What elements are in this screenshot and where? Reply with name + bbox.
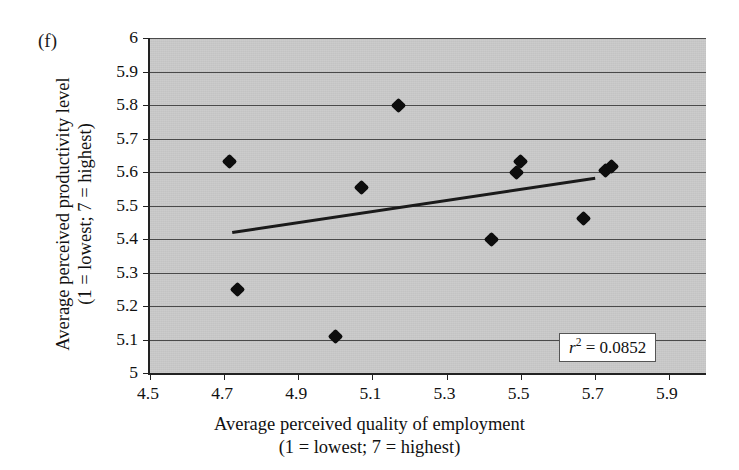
y-tick-label: 6 xyxy=(78,29,138,47)
data-point xyxy=(229,281,245,297)
gridline xyxy=(150,172,706,173)
y-tick-label: 5.2 xyxy=(78,297,138,315)
gridline xyxy=(150,105,706,106)
data-point xyxy=(391,97,407,113)
gridline xyxy=(150,273,706,274)
data-point xyxy=(353,179,369,195)
r-squared-equals: = xyxy=(581,338,599,357)
x-axis-tick xyxy=(447,373,448,380)
x-axis-tick xyxy=(372,373,373,380)
x-axis-tick xyxy=(521,373,522,380)
y-axis-tick xyxy=(143,105,150,106)
y-tick-label: 5.4 xyxy=(78,230,138,248)
gridline xyxy=(150,239,706,240)
y-axis-title-line1: Average perceived productivity level xyxy=(52,44,74,384)
data-point xyxy=(222,154,238,170)
x-tick-label: 5.5 xyxy=(489,383,549,404)
r-squared-symbol: r xyxy=(569,338,576,357)
r-squared-annotation: r2 = 0.0852 xyxy=(559,333,656,362)
data-point xyxy=(576,211,592,227)
data-point xyxy=(328,328,344,344)
y-axis-tick xyxy=(143,139,150,140)
y-axis-tick xyxy=(143,38,150,39)
gridline xyxy=(150,38,706,39)
data-point xyxy=(483,231,499,247)
y-axis-tick xyxy=(143,172,150,173)
y-tick-label: 5.1 xyxy=(78,331,138,349)
x-tick-label: 5.7 xyxy=(563,383,623,404)
x-axis-tick xyxy=(669,373,670,380)
x-tick-label: 4.9 xyxy=(266,383,326,404)
x-axis-tick xyxy=(224,373,225,380)
y-tick-label: 5.8 xyxy=(78,96,138,114)
x-axis-title-line2: (1 = lowest; 7 = highest) xyxy=(0,436,739,459)
y-axis-tick xyxy=(143,273,150,274)
gridline xyxy=(150,206,706,207)
plot-area: r2 = 0.0852 xyxy=(148,38,706,375)
y-tick-label: 5.7 xyxy=(78,130,138,148)
y-axis-tick xyxy=(143,72,150,73)
y-tick-label: 5.5 xyxy=(78,197,138,215)
x-axis-tick xyxy=(150,373,151,380)
y-tick-label: 5.6 xyxy=(78,163,138,181)
y-tick-label: 5 xyxy=(78,364,138,382)
y-axis-tick xyxy=(143,206,150,207)
y-axis-tick xyxy=(143,306,150,307)
figure-panel: (f) Average perceived productivity level… xyxy=(0,0,739,470)
x-tick-label: 4.5 xyxy=(118,383,178,404)
x-axis-tick xyxy=(595,373,596,380)
x-tick-label: 4.7 xyxy=(192,383,252,404)
x-tick-label: 5.3 xyxy=(415,383,475,404)
gridline xyxy=(150,306,706,307)
x-tick-label: 5.9 xyxy=(637,383,697,404)
gridline xyxy=(150,139,706,140)
y-axis-tick xyxy=(143,239,150,240)
x-tick-label: 5.1 xyxy=(340,383,400,404)
y-axis-tick xyxy=(143,340,150,341)
x-axis-title: Average perceived quality of employment … xyxy=(0,413,739,459)
gridline xyxy=(150,72,706,73)
y-tick-label: 5.9 xyxy=(78,63,138,81)
y-axis-tick xyxy=(143,373,150,374)
x-axis-title-line1: Average perceived quality of employment xyxy=(0,413,739,436)
y-tick-label: 5.3 xyxy=(78,264,138,282)
x-axis-tick xyxy=(298,373,299,380)
r-squared-value: 0.0852 xyxy=(599,338,646,357)
